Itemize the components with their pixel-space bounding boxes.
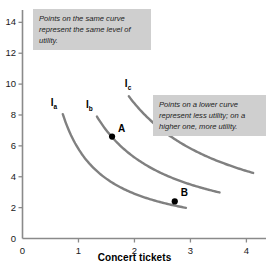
point-marker-B [172,198,178,204]
y-tick-label: 8 [0,109,16,120]
curve-label-subscript: a [54,103,58,110]
point-label-A: A [118,123,125,134]
annotation-lower-curve: Points on a lower curve represent less u… [153,95,266,136]
y-tick-label: 14 [0,16,16,27]
x-axis-title: Concert tickets [0,252,269,263]
point-label-B: B [181,187,188,198]
y-tick-label: 0 [0,233,16,244]
indifference-curve-chart: 02468101214 01234 Concert tickets Points… [0,0,269,267]
curve-label-Ib: Ib [86,99,93,112]
y-tick-label: 4 [0,171,16,182]
annotation-same-curve: Points on the same curve represent the s… [33,9,151,50]
curve-label-Ia: Ia [51,97,57,110]
y-tick-label: 10 [0,78,16,89]
curve-label-subscript: b [89,105,93,112]
curve-label-Ic: Ic [125,78,131,91]
y-tick-label: 6 [0,140,16,151]
point-marker-A [109,134,115,140]
y-tick-label: 2 [0,202,16,213]
curve-label-subscript: c [128,84,132,91]
y-tick-label: 12 [0,47,16,58]
